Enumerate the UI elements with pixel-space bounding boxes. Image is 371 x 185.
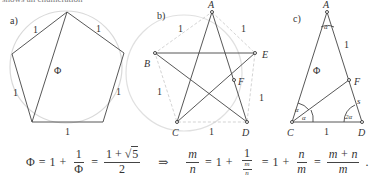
equals-sign: = bbox=[205, 155, 212, 170]
vertex-c-label: C bbox=[172, 127, 179, 138]
vertex-d-label: D bbox=[357, 127, 366, 138]
panel-a-label: a) bbox=[10, 15, 18, 27]
diagonal-label-phi: Φ bbox=[54, 65, 61, 76]
vertex-f-label: F bbox=[237, 76, 245, 87]
numerator: 1 bbox=[74, 148, 84, 162]
one: 1 bbox=[50, 155, 56, 170]
fraction-n-over-m: n m bbox=[295, 148, 308, 175]
numerator: n bbox=[297, 148, 307, 162]
denominator: m n bbox=[239, 161, 256, 177]
radicand: 5 bbox=[131, 146, 138, 161]
vertex-a-point bbox=[326, 11, 329, 14]
equals-sign: = bbox=[91, 155, 98, 170]
one: 1 bbox=[106, 147, 112, 161]
edge-label: 1 bbox=[241, 23, 246, 34]
panel-c-label: c) bbox=[293, 13, 301, 25]
side-af-label: 1 bbox=[344, 39, 349, 50]
segment-cf bbox=[292, 80, 349, 122]
numerator: m bbox=[186, 148, 199, 162]
vertex-b-label: B bbox=[144, 58, 150, 69]
side-cd-label: 1 bbox=[324, 126, 329, 137]
vertex-d-label: D bbox=[241, 127, 250, 138]
panel-b-label: b) bbox=[157, 10, 165, 22]
vertex-f-label: F bbox=[353, 76, 361, 87]
numerator: m + n bbox=[327, 148, 360, 162]
equals-sign: = bbox=[39, 155, 46, 170]
edge-label: 1 bbox=[209, 126, 214, 137]
panel-a: a) 1 1 1 1 1 Φ bbox=[10, 11, 124, 137]
vertex-a-label: A bbox=[322, 0, 330, 10]
vertex-c-point bbox=[176, 121, 179, 124]
vertex-c-label: C bbox=[287, 127, 294, 138]
vertex-a-point bbox=[211, 11, 214, 14]
edge-label: 1 bbox=[96, 23, 101, 34]
pentagram bbox=[155, 12, 255, 122]
fraction-golden-closed-form: 1 + √5 2 bbox=[104, 148, 140, 175]
vertex-a-label: A bbox=[207, 0, 215, 10]
plus-sign: + bbox=[282, 155, 289, 170]
edge-label: 1 bbox=[33, 24, 38, 35]
side-fd-label: s bbox=[357, 96, 361, 106]
period: . bbox=[365, 155, 368, 170]
vertex-d-point bbox=[246, 121, 249, 124]
equals-sign: = bbox=[314, 155, 321, 170]
edge-label: 1 bbox=[157, 86, 162, 97]
vertex-c-point bbox=[291, 121, 294, 124]
fraction-m-over-n: m n bbox=[186, 148, 199, 175]
equals-sign: = bbox=[262, 155, 269, 170]
edge-label: 1 bbox=[13, 87, 18, 98]
circumcircle-a bbox=[10, 11, 122, 123]
vertex-f-point bbox=[233, 79, 236, 82]
angle-d-label: 2α bbox=[345, 113, 353, 121]
one: 1 bbox=[216, 155, 222, 170]
denominator: 2 bbox=[117, 163, 127, 176]
panel-b: b) A B C D E F 1 1 1 1 1 bbox=[126, 0, 268, 138]
edge-label: 1 bbox=[116, 86, 121, 97]
numerator: 1 bbox=[242, 147, 252, 161]
vertex-d-point bbox=[361, 121, 364, 124]
angle-arc-c2 bbox=[311, 110, 313, 122]
angle-a-label: α bbox=[324, 23, 328, 31]
denominator: Φ bbox=[72, 163, 85, 176]
panel-c: c) A C D F 1 Φ s 1 α α α 2α bbox=[287, 0, 366, 138]
edge-label: 1 bbox=[65, 126, 70, 137]
angle-arc-c1 bbox=[298, 103, 309, 110]
figure-panels: a) 1 1 1 1 1 Φ b) A B C D E F bbox=[0, 0, 371, 140]
angle-c1-label: α bbox=[295, 106, 299, 114]
vertex-f-point bbox=[348, 79, 351, 82]
vertex-b-point bbox=[154, 52, 157, 55]
side-ac-label-phi: Φ bbox=[313, 65, 320, 76]
plus-sign: + bbox=[60, 155, 67, 170]
denominator: n bbox=[243, 170, 251, 178]
numerator: 1 + √5 bbox=[104, 148, 140, 162]
denominator: m bbox=[337, 163, 350, 176]
one: 1 bbox=[272, 155, 278, 170]
golden-ratio-formula: Φ = 1 + 1 Φ = 1 + √5 2 ⇒ m n = 1 + 1 m n… bbox=[26, 142, 368, 182]
denominator: m bbox=[295, 163, 308, 176]
dashed-pentagon bbox=[155, 12, 255, 122]
nested-fraction-m-over-n: m n bbox=[243, 161, 252, 177]
plus-sign: + bbox=[115, 147, 122, 161]
fraction-one-over-phi: 1 Φ bbox=[72, 148, 85, 175]
fraction-m-plus-n-over-m: m + n m bbox=[327, 148, 360, 175]
denominator: n bbox=[188, 163, 198, 176]
fraction-one-over-m-over-n: 1 m n bbox=[239, 147, 256, 178]
phi-symbol: Φ bbox=[26, 155, 35, 170]
angle-c2-label: α bbox=[302, 114, 306, 122]
implies-arrow: ⇒ bbox=[158, 155, 168, 170]
edge-label: 1 bbox=[178, 23, 183, 34]
vertex-e-point bbox=[254, 52, 257, 55]
plus-sign: + bbox=[226, 155, 233, 170]
vertex-e-label: E bbox=[261, 49, 268, 60]
edge-label: 1 bbox=[259, 92, 264, 103]
